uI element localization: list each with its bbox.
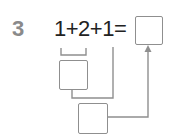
connector-lines — [0, 0, 176, 138]
result-connector — [108, 50, 148, 117]
arrow-up-icon — [145, 45, 152, 52]
bracket-first-two-terms — [61, 48, 86, 55]
